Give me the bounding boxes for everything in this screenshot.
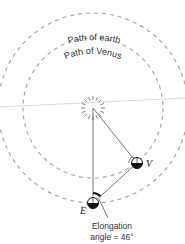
elongation-arc [93, 193, 100, 196]
venus-path-label: Path of Venus [63, 46, 124, 62]
venus-sun-line [93, 108, 137, 163]
venus-label: V [146, 158, 154, 169]
elongation-label-line2: angle = 46° [90, 232, 133, 242]
earth-path-label: Path of earth [67, 32, 122, 45]
venus-planet-icon [132, 158, 143, 169]
elongation-label-line1: Elongation [92, 221, 132, 231]
earth-planet-icon [88, 198, 99, 209]
earth-label: E [79, 205, 86, 216]
venus-elongation-diagram: Path of earth Path of Venus V [0, 0, 185, 244]
earth-venus-line [93, 163, 137, 203]
